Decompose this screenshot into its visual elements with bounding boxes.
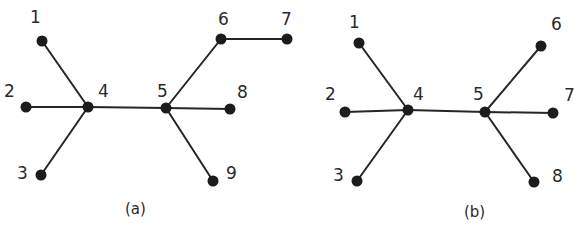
node-label: 3 <box>333 165 344 185</box>
node-label: 1 <box>349 12 360 32</box>
node-label: 4 <box>98 81 109 101</box>
node-6 <box>216 34 227 45</box>
graph-b: 12345678(b) <box>325 12 574 221</box>
node-5 <box>480 107 491 118</box>
edge-1-4 <box>359 43 408 110</box>
node-label: 4 <box>413 84 424 104</box>
node-label: 5 <box>157 81 168 101</box>
node-label: 6 <box>551 14 562 34</box>
node-1 <box>354 38 365 49</box>
node-3 <box>36 170 47 181</box>
graph-a: 123456789(a) <box>4 7 293 218</box>
edge-5-9 <box>166 108 213 181</box>
node-label: 2 <box>4 81 15 101</box>
node-label: 7 <box>281 9 292 29</box>
edge-1-4 <box>42 41 88 107</box>
node-label: 2 <box>325 84 336 104</box>
node-8 <box>225 104 236 115</box>
edge-3-4 <box>41 107 88 175</box>
edge-4-5 <box>88 107 166 108</box>
edge-2-4 <box>345 110 408 112</box>
node-3 <box>352 176 363 187</box>
edge-4-5 <box>408 110 485 112</box>
node-8 <box>529 177 540 188</box>
node-label: 8 <box>237 82 248 102</box>
node-7 <box>282 34 293 45</box>
edge-5-8 <box>485 112 534 182</box>
node-7 <box>548 108 559 119</box>
edge-3-4 <box>357 110 408 181</box>
node-6 <box>536 41 547 52</box>
graph-caption: (b) <box>464 203 485 221</box>
node-2 <box>340 107 351 118</box>
node-4 <box>403 105 414 116</box>
node-9 <box>208 176 219 187</box>
node-1 <box>37 36 48 47</box>
node-label: 3 <box>17 163 28 183</box>
edge-5-6 <box>485 46 541 112</box>
node-label: 9 <box>226 163 237 183</box>
edge-5-7 <box>485 112 553 113</box>
node-5 <box>161 103 172 114</box>
graph-caption: (a) <box>125 200 146 218</box>
edge-5-6 <box>166 39 221 108</box>
node-label: 7 <box>564 85 574 105</box>
node-4 <box>83 102 94 113</box>
node-label: 8 <box>552 166 563 186</box>
node-label: 1 <box>30 7 41 27</box>
node-2 <box>21 102 32 113</box>
edge-5-8 <box>166 108 230 109</box>
node-label: 6 <box>218 9 229 29</box>
node-label: 5 <box>473 84 484 104</box>
tree-diagrams: 123456789(a) 12345678(b) <box>0 0 574 237</box>
